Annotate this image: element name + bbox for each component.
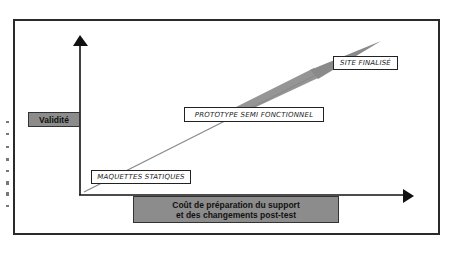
y-axis-label-text: Validité — [39, 115, 69, 125]
x-axis-label-line1: Coût de préparation du support — [172, 200, 300, 210]
stage-label-text: MAQUETTES STATIQUES — [97, 173, 185, 181]
stage-label-text: PROTOTYPE SEMI FONCTIONNEL — [195, 111, 314, 119]
y-axis-arrowhead — [73, 35, 88, 46]
stage-label-maquettes: MAQUETTES STATIQUES — [91, 170, 191, 184]
x-axis-label: Coût de préparation du support et des ch… — [133, 196, 339, 223]
x-axis-arrowhead — [403, 189, 414, 203]
y-axis-label: Validité — [28, 112, 80, 127]
stage-label-prototype: PROTOTYPE SEMI FONCTIONNEL — [184, 107, 324, 122]
stage-label-text: SITE FINALISÉ — [340, 59, 391, 67]
stage-label-site-finalise: SITE FINALISÉ — [333, 56, 398, 70]
x-axis-label-line2: et des changements post-test — [176, 210, 296, 220]
